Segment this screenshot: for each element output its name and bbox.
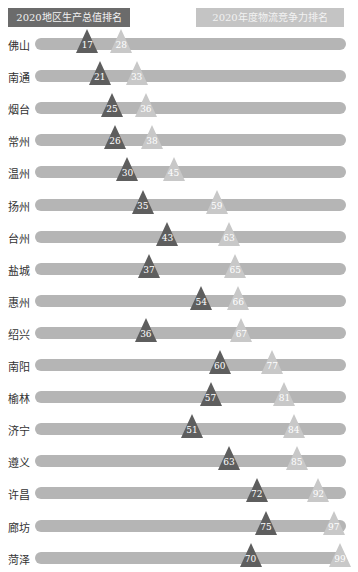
gdp-rank-marker: 63	[218, 446, 240, 470]
rank-value: 30	[116, 168, 138, 178]
legend-logistics: 2020年度物流竞争力排名	[196, 8, 344, 27]
gdp-rank-marker: 54	[190, 286, 212, 310]
chart-row: 烟台2536	[0, 93, 358, 125]
city-label: 台州	[8, 230, 32, 246]
rank-track	[35, 552, 346, 564]
gdp-rank-marker: 60	[209, 350, 231, 374]
rank-value: 63	[218, 233, 240, 243]
rank-value: 66	[227, 297, 249, 307]
gdp-rank-marker: 57	[200, 382, 222, 406]
gdp-rank-marker: 70	[240, 543, 262, 567]
rank-value: 33	[126, 72, 148, 82]
rank-value: 37	[138, 265, 160, 275]
rank-value: 57	[200, 393, 222, 403]
city-label: 南通	[8, 69, 32, 85]
rank-value: 35	[132, 201, 154, 211]
gdp-rank-marker: 26	[104, 125, 126, 149]
chart-row: 榆林5781	[0, 382, 358, 414]
rank-value: 99	[329, 554, 351, 564]
chart-row: 绍兴3667	[0, 318, 358, 350]
rank-value: 17	[76, 40, 98, 50]
rank-track	[35, 199, 346, 211]
rank-value: 51	[181, 425, 203, 435]
rank-value: 63	[218, 457, 240, 467]
logistics-rank-marker: 65	[224, 254, 246, 278]
chart-row: 台州4363	[0, 222, 358, 254]
city-label: 榆林	[8, 390, 32, 406]
chart-row: 济宁5184	[0, 414, 358, 446]
gdp-rank-marker: 21	[89, 61, 111, 85]
city-label: 常州	[8, 133, 32, 149]
chart-row: 常州2638	[0, 125, 358, 157]
city-label: 廊坊	[8, 519, 32, 535]
rank-value: 65	[224, 265, 246, 275]
gdp-rank-marker: 25	[101, 93, 123, 117]
city-label: 烟台	[8, 101, 32, 117]
rank-value: 97	[323, 522, 345, 532]
rank-value: 36	[135, 329, 157, 339]
city-label: 遵义	[8, 454, 32, 470]
rank-value: 75	[255, 522, 277, 532]
rank-track	[35, 359, 346, 371]
gdp-rank-marker: 17	[76, 29, 98, 53]
logistics-rank-marker: 77	[261, 350, 283, 374]
chart-row: 南通2133	[0, 61, 358, 93]
rank-value: 28	[110, 40, 132, 50]
city-label: 温州	[8, 165, 32, 181]
rank-value: 60	[209, 361, 231, 371]
chart-row: 惠州5466	[0, 286, 358, 318]
logistics-rank-marker: 97	[323, 511, 345, 535]
rank-value: 70	[240, 554, 262, 564]
gdp-rank-marker: 37	[138, 254, 160, 278]
rank-track	[35, 134, 346, 146]
rank-track	[35, 263, 346, 275]
legend-gdp: 2020地区生产总值排名	[8, 8, 130, 27]
logistics-rank-marker: 45	[163, 157, 185, 181]
chart-row: 扬州3559	[0, 190, 358, 222]
city-label: 佛山	[8, 37, 32, 53]
rank-value: 54	[190, 297, 212, 307]
chart-row: 南阳6077	[0, 350, 358, 382]
chart-row: 盐城3765	[0, 254, 358, 286]
gdp-rank-marker: 36	[135, 318, 157, 342]
logistics-rank-marker: 28	[110, 29, 132, 53]
chart-row: 许昌7292	[0, 478, 358, 510]
rank-value: 81	[273, 393, 295, 403]
logistics-rank-marker: 66	[227, 286, 249, 310]
rank-value: 67	[230, 329, 252, 339]
gdp-rank-marker: 35	[132, 190, 154, 214]
rank-track	[35, 327, 346, 339]
city-label: 济宁	[8, 422, 32, 438]
city-label: 南阳	[8, 358, 32, 374]
city-label: 盐城	[8, 262, 32, 278]
city-label: 菏泽	[8, 551, 32, 567]
chart-row: 廊坊7597	[0, 511, 358, 543]
rank-track	[35, 70, 346, 82]
rank-track	[35, 102, 346, 114]
logistics-rank-marker: 81	[273, 382, 295, 406]
rank-value: 92	[307, 489, 329, 499]
rank-value: 45	[163, 168, 185, 178]
rank-track	[35, 166, 346, 178]
rank-value: 72	[246, 489, 268, 499]
rank-track	[35, 520, 346, 532]
gdp-rank-marker: 75	[255, 511, 277, 535]
logistics-rank-marker: 92	[307, 478, 329, 502]
rank-value: 85	[286, 457, 308, 467]
chart-row: 温州3045	[0, 157, 358, 189]
rank-value: 84	[283, 425, 305, 435]
logistics-rank-marker: 63	[218, 222, 240, 246]
chart-row: 佛山1728	[0, 29, 358, 61]
logistics-rank-marker: 85	[286, 446, 308, 470]
logistics-rank-marker: 67	[230, 318, 252, 342]
logistics-rank-marker: 33	[126, 61, 148, 85]
chart-row: 遵义6385	[0, 446, 358, 478]
rank-track	[35, 231, 346, 243]
city-label: 绍兴	[8, 326, 32, 342]
chart-row: 菏泽7099	[0, 543, 358, 572]
gdp-rank-marker: 30	[116, 157, 138, 181]
logistics-rank-marker: 99	[329, 543, 351, 567]
gdp-rank-marker: 72	[246, 478, 268, 502]
rank-value: 36	[135, 104, 157, 114]
city-label: 许昌	[8, 486, 32, 502]
